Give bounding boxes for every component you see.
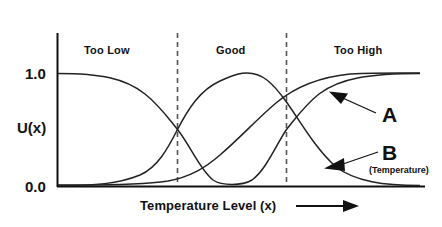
annotation-leader-a bbox=[329, 92, 376, 114]
plot-canvas bbox=[0, 0, 442, 227]
curve-too-high bbox=[58, 121, 420, 185]
annotation-label-b: B bbox=[382, 142, 397, 163]
annotation-sublabel-temperature: (Temperature) bbox=[369, 166, 429, 175]
y-tick-label-0: 0.0 bbox=[25, 179, 46, 194]
curve-good bbox=[58, 74, 420, 185]
curve-too-low bbox=[58, 73, 247, 186]
y-tick-label-1: 1.0 bbox=[25, 66, 46, 81]
x-direction-arrow-icon bbox=[296, 200, 359, 212]
region-label-good: Good bbox=[216, 45, 246, 56]
region-label-too-high: Too High bbox=[334, 45, 382, 56]
x-axis-title: Temperature Level (x) bbox=[140, 199, 276, 212]
curve-too-high-sigmoid bbox=[58, 73, 420, 185]
region-label-too-low: Too Low bbox=[84, 45, 130, 56]
annotation-label-a: A bbox=[382, 104, 397, 125]
y-axis-title: U(x) bbox=[17, 120, 46, 135]
fuzzy-membership-figure: 1.0 0.0 U(x) Too Low Good Too High A B (… bbox=[0, 0, 442, 227]
